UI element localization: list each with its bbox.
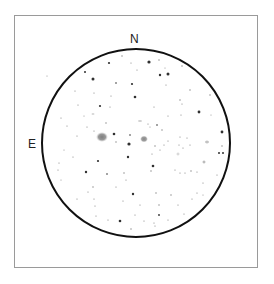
galaxy [96,132,108,142]
star [123,172,124,173]
star [179,99,180,100]
star [134,214,135,215]
star [167,140,168,141]
star [203,195,204,196]
star [110,95,111,96]
star [221,131,224,134]
star [154,225,155,226]
star [182,147,183,148]
star [84,116,85,117]
star [107,219,108,220]
star [58,162,59,163]
star [60,117,61,118]
star-layer [47,55,225,229]
star [61,180,62,181]
star [163,144,164,145]
star [159,149,160,150]
star [167,219,168,220]
star [143,220,144,221]
star [191,198,192,199]
star [131,83,133,85]
star [47,76,48,77]
star [57,169,58,170]
star [64,150,65,151]
galaxy [202,160,206,164]
star [170,194,171,195]
star [97,160,99,162]
star [154,145,155,146]
star [105,122,106,123]
star [136,69,137,70]
star [211,115,212,116]
star [74,90,75,91]
star [153,106,154,107]
star [130,62,131,63]
star [125,179,126,180]
star [153,222,154,223]
star [72,156,73,157]
star [76,135,77,136]
star [86,126,87,127]
east-label: E [28,138,36,150]
star [156,124,158,126]
star [152,165,155,168]
star [94,205,95,206]
star [87,191,88,192]
star [222,152,224,154]
star [132,193,134,195]
star [189,144,190,145]
star [198,111,201,114]
star [115,186,116,187]
star [108,62,110,64]
star [179,172,180,173]
galaxy-layer [91,113,210,165]
star [196,192,197,193]
star [106,173,108,175]
star [84,71,86,73]
star [159,74,161,76]
star [190,170,191,171]
galaxy [205,140,210,144]
star [186,137,187,138]
star [150,170,151,171]
star [155,192,156,193]
star [209,94,210,95]
star [165,84,166,85]
star [147,60,150,63]
star [196,171,197,172]
star [127,142,130,145]
star [92,78,95,81]
star [150,127,151,128]
star [134,96,137,99]
galaxy [140,136,148,143]
star [151,153,152,154]
star [189,89,190,90]
star [93,92,94,93]
star [127,156,129,158]
star [180,114,181,115]
star [183,213,184,214]
star [93,198,94,199]
star [174,169,175,170]
star [92,186,93,187]
star [178,144,179,145]
star [179,136,180,137]
star [76,198,77,199]
star [202,182,203,183]
field-of-view-circle [42,49,230,237]
galaxy [176,152,180,156]
star [66,125,67,126]
star [184,172,185,173]
star [95,215,96,216]
star [167,115,168,116]
star [77,104,78,105]
star [115,82,117,84]
star [93,130,94,131]
star [221,145,222,146]
star [85,171,87,173]
star [161,129,162,130]
galaxy [91,113,95,116]
star [119,220,122,223]
star [158,204,159,205]
star [115,141,116,142]
